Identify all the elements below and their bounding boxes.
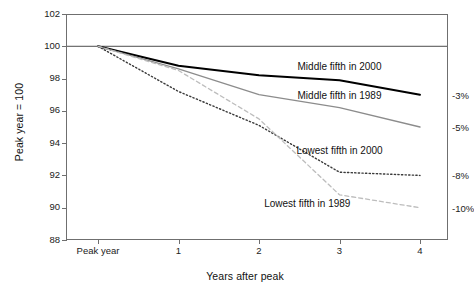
- series-name-annotation: Lowest fifth in 2000: [296, 144, 382, 155]
- x-axis-tick-mark: [420, 240, 421, 244]
- series-paths-group: [67, 46, 447, 207]
- x-axis-tick-label: 4: [417, 245, 422, 256]
- x-axis-tick-mark: [259, 240, 260, 244]
- series-name-annotation: Lowest fifth in 1989: [264, 197, 350, 208]
- series-name-annotation: Middle fifth in 1989: [298, 89, 382, 100]
- x-axis-tick-mark: [179, 240, 180, 244]
- series-name-annotation: Middle fifth in 2000: [298, 60, 382, 71]
- x-axis-title: Years after peak: [175, 270, 315, 282]
- series-end-label: -3%: [452, 89, 469, 100]
- x-axis-tick-mark: [98, 240, 99, 244]
- x-axis-tick-mark: [340, 240, 341, 244]
- x-axis-tick-label: Peak year: [77, 245, 120, 256]
- x-axis-tick-label: 3: [337, 245, 342, 256]
- series-end-label: -5%: [452, 122, 469, 133]
- series-end-label: -10%: [452, 202, 474, 213]
- x-axis-tick-label: 1: [176, 245, 181, 256]
- x-axis-tick-label: 2: [256, 245, 261, 256]
- series-end-label: -8%: [452, 170, 469, 181]
